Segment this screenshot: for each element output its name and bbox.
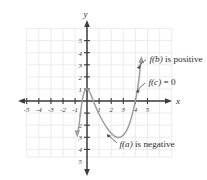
annotation-fa-suffix: is negative	[133, 139, 175, 149]
x-tick-label: 2	[109, 106, 113, 114]
x-tick-label: -5	[24, 106, 30, 114]
annotation-fb-suffix: is positive	[163, 54, 203, 64]
annotation-fa-prefix: f(a)	[120, 139, 133, 149]
y-tick-label: 2	[79, 74, 83, 82]
annotation-fb-positive: f(b) is positive	[150, 54, 203, 64]
x-tick-label: -3	[48, 106, 54, 114]
y-tick-label: 1	[79, 86, 83, 94]
figure-background	[0, 0, 207, 180]
x-tick-label: 5	[146, 106, 150, 114]
annotation-fa-negative: f(a) is negative	[120, 139, 175, 149]
x-tick-label: -4	[36, 106, 42, 114]
y-tick-label: 4	[79, 50, 83, 58]
annotation-fb-prefix: f(b)	[150, 54, 163, 64]
x-tick-label: -2	[60, 106, 66, 114]
y-tick-label: 5	[79, 158, 83, 166]
figure-canvas: -5 -4 -3 -2 -1 1 2 3 4 5 5 4 3 2 1 1 2 3…	[0, 0, 207, 180]
x-axis-label: x	[175, 96, 180, 106]
x-tick-label: 3	[121, 106, 126, 114]
annotation-fc-suffix: = 0	[161, 77, 176, 87]
x-tick-label: -1	[72, 106, 78, 114]
y-tick-label: 3	[78, 134, 83, 142]
y-axis-label: y	[83, 9, 88, 19]
graph-figure: -5 -4 -3 -2 -1 1 2 3 4 5 5 4 3 2 1 1 2 3…	[0, 0, 207, 180]
y-tick-label: 4	[79, 146, 83, 154]
y-tick-label: 3	[78, 62, 83, 70]
y-tick-label: 5	[79, 37, 83, 45]
annotation-fc-prefix: f(c)	[149, 77, 162, 87]
annotation-fc-zero: f(c) = 0	[149, 77, 177, 87]
